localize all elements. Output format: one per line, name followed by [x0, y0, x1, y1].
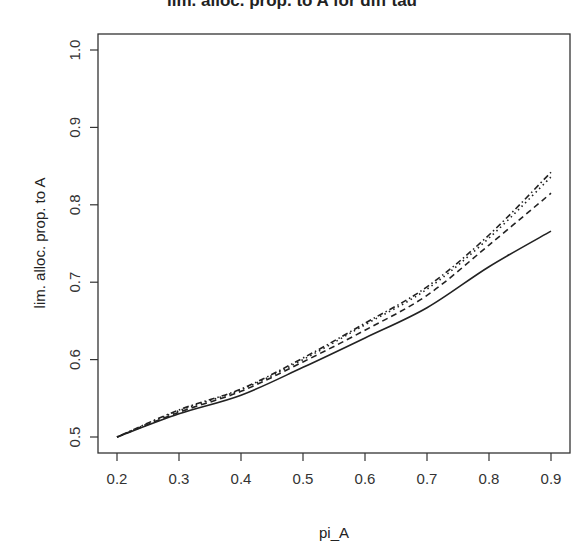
y-tick-label: 0.5: [66, 427, 83, 448]
line-chart: 0.20.30.40.50.60.70.80.9 0.50.60.70.80.9…: [0, 0, 584, 554]
y-axis-label: lim. alloc. prop. to A: [31, 178, 48, 309]
y-tick-label: 0.6: [66, 349, 83, 370]
x-tick-label: 0.9: [541, 470, 562, 487]
x-axis-label: pi_A: [319, 524, 349, 541]
y-axis: 0.50.60.70.80.91.0: [66, 40, 98, 448]
y-tick-label: 0.7: [66, 272, 83, 293]
x-tick-label: 0.2: [107, 470, 128, 487]
y-tick-label: 0.8: [66, 194, 83, 215]
series-line-dotdash: [117, 172, 551, 437]
series-lines: [117, 172, 551, 437]
x-tick-label: 0.7: [417, 470, 438, 487]
x-tick-label: 0.5: [293, 470, 314, 487]
series-line-solid: [117, 231, 551, 437]
x-tick-label: 0.4: [231, 470, 252, 487]
x-tick-label: 0.6: [355, 470, 376, 487]
series-line-dotted: [117, 177, 551, 437]
plot-frame: [98, 34, 570, 453]
y-tick-label: 0.9: [66, 117, 83, 138]
x-tick-label: 0.3: [169, 470, 190, 487]
x-axis: 0.20.30.40.50.60.70.80.9: [107, 453, 562, 487]
y-tick-label: 1.0: [66, 40, 83, 61]
series-line-dashed: [117, 193, 551, 437]
x-tick-label: 0.8: [479, 470, 500, 487]
